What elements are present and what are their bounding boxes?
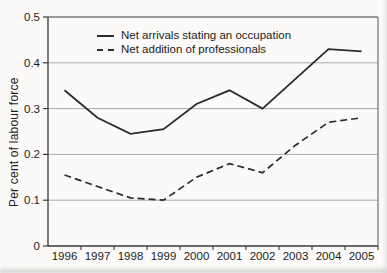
dashed-line-sample-icon xyxy=(97,49,114,51)
y-axis-title: Per cent of labour force xyxy=(7,77,21,207)
y-tick-label: 0.1 xyxy=(24,194,40,206)
y-tick-label: 0.5 xyxy=(24,11,40,23)
chart-figure: 00.10.20.30.40.5199619971998199920002001… xyxy=(0,0,387,273)
y-tick-label: 0.3 xyxy=(24,103,40,115)
y-tick-label: 0.4 xyxy=(24,57,41,69)
series-line-solid xyxy=(65,49,362,134)
x-tick-label: 1998 xyxy=(118,250,144,262)
x-tick-label: 2000 xyxy=(184,250,210,262)
x-tick-label: 1997 xyxy=(85,250,111,262)
x-tick-label: 2004 xyxy=(316,250,342,262)
x-tick-label: 2005 xyxy=(349,250,375,262)
x-tick-label: 1996 xyxy=(52,250,78,262)
x-tick-label: 2002 xyxy=(250,250,276,262)
y-tick-label: 0.2 xyxy=(24,148,40,160)
series-line-dashed xyxy=(65,118,362,200)
page-scan-shadow-bottom xyxy=(0,266,387,273)
solid-line-sample-icon xyxy=(97,35,114,37)
legend-item-net-addition: Net addition of professionals xyxy=(97,43,291,56)
x-tick-label: 2001 xyxy=(217,250,243,262)
x-tick-label: 1999 xyxy=(151,250,177,262)
legend-label-net-arrivals: Net arrivals stating an occupation xyxy=(121,29,291,42)
legend: Net arrivals stating an occupation Net a… xyxy=(97,29,291,56)
page-scan-shadow-right xyxy=(382,0,387,273)
y-tick-label: 0 xyxy=(34,240,40,252)
x-tick-label: 2003 xyxy=(283,250,309,262)
legend-label-net-addition: Net addition of professionals xyxy=(121,43,266,56)
legend-item-net-arrivals: Net arrivals stating an occupation xyxy=(97,29,291,42)
